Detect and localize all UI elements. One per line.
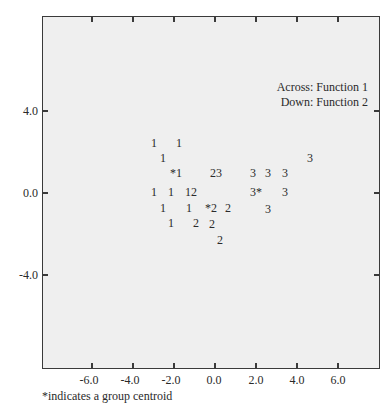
x-tick-label: 0.0 — [207, 373, 222, 388]
centroid-group-2: *2 — [205, 202, 217, 214]
y-tick-right — [374, 110, 379, 112]
point-group-3: 3 — [250, 167, 256, 179]
point-group-1: 1 — [160, 152, 166, 164]
point-group-2: 2 — [217, 234, 223, 246]
y-tick-label: -4.0 — [0, 268, 38, 283]
x-tick-bottom — [296, 363, 298, 368]
y-tick-right — [374, 274, 379, 276]
x-tick-top — [214, 17, 216, 22]
point-group-2: 2 — [209, 218, 215, 230]
x-tick-top — [255, 17, 257, 22]
legend-down: Down: Function 2 — [277, 95, 368, 110]
point-group-3: 3 — [307, 152, 313, 164]
point-group-1: 1 — [151, 186, 157, 198]
x-tick-bottom — [91, 363, 93, 368]
centroid-group-1: *1 — [170, 167, 182, 179]
point-group-3: 3 — [265, 203, 271, 215]
x-tick-top — [91, 17, 93, 22]
point-group-1: 1 — [168, 186, 174, 198]
x-tick-bottom — [255, 363, 257, 368]
x-tick-label: -6.0 — [80, 373, 99, 388]
x-tick-label: 6.0 — [331, 373, 346, 388]
plot-area — [42, 16, 380, 369]
x-tick-bottom — [214, 363, 216, 368]
x-tick-bottom — [132, 363, 134, 368]
x-tick-bottom — [337, 363, 339, 368]
x-tick-bottom — [173, 363, 175, 368]
y-tick-left — [43, 110, 48, 112]
x-tick-top — [296, 17, 298, 22]
point-group-1: 1 — [160, 202, 166, 214]
point-group-1: 1 — [186, 202, 192, 214]
point-group-3: 3 — [265, 167, 271, 179]
y-tick-label: 4.0 — [0, 104, 38, 119]
point-group-1: 1 — [176, 137, 182, 149]
point-group-1: 1 — [168, 217, 174, 229]
y-tick-left — [43, 192, 48, 194]
point-group-2: 2 — [225, 202, 231, 214]
point-group-3: 3 — [282, 186, 288, 198]
y-tick-left — [43, 274, 48, 276]
y-tick-label: 0.0 — [0, 186, 38, 201]
legend-across: Across: Function 1 — [277, 80, 368, 95]
point-group-2-3: 23 — [210, 167, 222, 179]
x-tick-label: 2.0 — [249, 373, 264, 388]
point-group-2: 2 — [193, 217, 199, 229]
centroid-group-3: 3* — [250, 186, 262, 198]
x-tick-label: -4.0 — [121, 373, 140, 388]
x-tick-top — [132, 17, 134, 22]
point-group-3: 3 — [282, 167, 288, 179]
x-tick-top — [337, 17, 339, 22]
point-group-1: 1 — [151, 137, 157, 149]
x-tick-label: -2.0 — [162, 373, 181, 388]
legend: Across: Function 1 Down: Function 2 — [277, 80, 368, 110]
y-tick-right — [374, 192, 379, 194]
x-tick-top — [173, 17, 175, 22]
point-group-1-2: 12 — [185, 186, 197, 198]
centroid-footnote: *indicates a group centroid — [42, 389, 172, 404]
x-tick-label: 4.0 — [290, 373, 305, 388]
